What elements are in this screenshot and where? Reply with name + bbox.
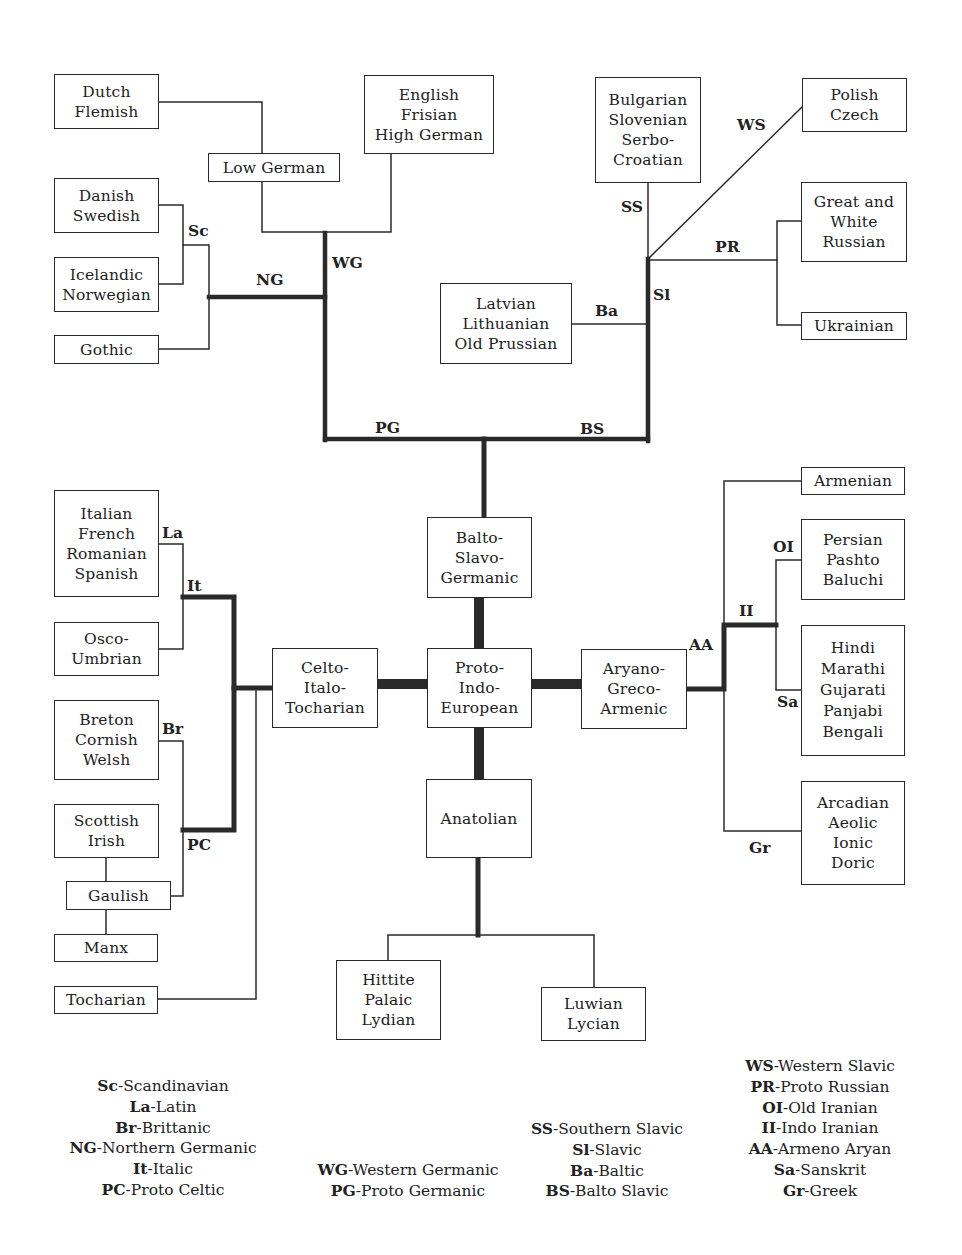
legend-entry: Br-Brittanic: [52, 1118, 274, 1139]
node-anatolian: Anatolian: [426, 779, 532, 858]
node-aryano-greco-armenic: Aryano- Greco- Armenic: [581, 649, 687, 729]
node-gaulish: Gaulish: [66, 881, 171, 910]
node-armenian: Armenian: [801, 467, 905, 495]
node-baltic: Latvian Lithuanian Old Prussian: [440, 283, 572, 364]
node-text: English: [399, 85, 459, 105]
node-manx: Manx: [54, 934, 158, 962]
branch-label-br: Br: [162, 719, 183, 738]
node-balto-slavo-germanic: Balto- Slavo- Germanic: [427, 517, 532, 598]
node-proto-indo-european: Proto- Indo- European: [427, 648, 532, 728]
node-text: Lycian: [567, 1014, 620, 1034]
legend-entry: It-Italic: [52, 1159, 274, 1180]
branch-label-ss: SS: [621, 197, 643, 216]
node-text: Icelandic: [70, 265, 144, 285]
node-luwian-lycian: Luwian Lycian: [541, 987, 646, 1041]
branch-label-ba: Ba: [595, 301, 618, 320]
legend-entry: SS-Southern Slavic: [518, 1119, 696, 1140]
node-text: Panjabi: [823, 701, 882, 722]
node-text: Pashto: [826, 550, 880, 570]
connector-aa-thin: [724, 481, 801, 831]
branch-label-bs: BS: [580, 419, 604, 438]
node-osco-umbrian: Osco- Umbrian: [54, 622, 159, 676]
node-text: Great and: [814, 192, 894, 212]
node-text: Baluchi: [823, 570, 884, 590]
node-text: Marathi: [821, 659, 885, 680]
node-text: Serbo-: [622, 130, 675, 150]
node-text: Flemish: [75, 102, 139, 122]
branch-label-sl: Sl: [653, 285, 670, 304]
connector-pr-branches: [777, 221, 801, 325]
node-text: Armenic: [600, 699, 668, 719]
node-text: Old Prussian: [455, 334, 558, 354]
branch-label-aa: AA: [689, 635, 713, 654]
legend-entry: PR-Proto Russian: [727, 1077, 913, 1098]
node-text: Cornish: [75, 730, 138, 750]
legend-entry: II-Indo Iranian: [727, 1118, 913, 1139]
node-text: Irish: [88, 831, 125, 851]
connector-it-pc: [183, 597, 234, 830]
node-text: French: [78, 524, 135, 544]
node-text: Armenian: [814, 471, 892, 491]
legend-entry: Ba-Baltic: [518, 1161, 696, 1182]
node-text: Frisian: [401, 105, 458, 125]
node-icelandic-norwegian: Icelandic Norwegian: [54, 257, 159, 312]
branch-label-sa: Sa: [777, 692, 798, 711]
node-text: Polish: [830, 85, 878, 105]
node-celto-italo-tocharian: Celto- Italo- Tocharian: [272, 648, 378, 728]
node-text: Norwegian: [62, 285, 151, 305]
node-text: Hindi: [831, 638, 875, 659]
node-text: High German: [375, 125, 483, 145]
branch-label-ws: WS: [737, 115, 766, 134]
connector-la: [158, 544, 183, 649]
node-text: Bulgarian: [609, 90, 688, 110]
node-text: White: [830, 212, 877, 232]
node-text: Swedish: [73, 206, 140, 226]
branch-label-ng: NG: [256, 270, 283, 289]
node-gothic: Gothic: [54, 335, 159, 364]
node-text: Welsh: [83, 750, 131, 770]
node-text: Palaic: [364, 990, 412, 1010]
connector-danish-icelandic: [158, 205, 183, 284]
node-iranian: Persian Pashto Baluchi: [801, 519, 905, 600]
legend-entry: BS-Balto Slavic: [518, 1181, 696, 1202]
node-text: Ukrainian: [814, 316, 894, 336]
node-text: Proto-: [455, 658, 504, 678]
node-greek: Arcadian Aeolic Ionic Doric: [801, 781, 905, 885]
node-ukrainian: Ukrainian: [801, 312, 907, 340]
node-tocharian: Tocharian: [54, 986, 158, 1014]
node-text: Croatian: [613, 150, 683, 170]
node-text: Bengali: [822, 722, 883, 743]
node-text: Italian: [80, 504, 132, 524]
node-text: Italo-: [304, 678, 346, 698]
branch-label-pg: PG: [375, 418, 400, 437]
legend-column-1: Sc-Scandinavian La-Latin Br-Brittanic NG…: [52, 1076, 274, 1201]
branch-label-pr: PR: [715, 237, 740, 256]
node-text: European: [441, 698, 519, 718]
node-text: Indo-: [459, 678, 501, 698]
node-text: Danish: [79, 186, 135, 206]
node-text: Lydian: [361, 1010, 415, 1030]
node-text: Anatolian: [441, 809, 518, 829]
node-text: Dutch: [82, 82, 130, 102]
node-text: Germanic: [440, 568, 518, 588]
node-danish-swedish: Danish Swedish: [54, 178, 159, 233]
legend-entry: WS-Western Slavic: [727, 1056, 913, 1077]
connector-oi-sa: [776, 560, 801, 690]
language-family-tree: Dutch Flemish English Frisian High Germa…: [0, 0, 962, 1255]
node-text: Latvian: [476, 294, 536, 314]
node-south-slavic: Bulgarian Slovenian Serbo- Croatian: [595, 77, 701, 183]
node-text: Arcadian: [817, 793, 889, 813]
branch-label-it: It: [187, 576, 201, 595]
legend-entry: Sc-Scandinavian: [52, 1076, 274, 1097]
node-text: Osco-: [84, 629, 129, 649]
node-text: Ionic: [833, 833, 873, 853]
connector-dutch-lowgerman: [158, 102, 262, 153]
node-hittite-palaic-lydian: Hittite Palaic Lydian: [336, 960, 441, 1040]
node-text: Gothic: [80, 340, 133, 360]
legend-column-3: SS-Southern Slavic Sl-Slavic Ba-Baltic B…: [518, 1119, 696, 1202]
legend-entry: Sa-Sanskrit: [727, 1160, 913, 1181]
node-text: Romanian: [66, 544, 147, 564]
node-text: Czech: [830, 105, 879, 125]
branch-label-pc: PC: [187, 835, 211, 854]
node-text: Aryano-: [603, 659, 666, 679]
